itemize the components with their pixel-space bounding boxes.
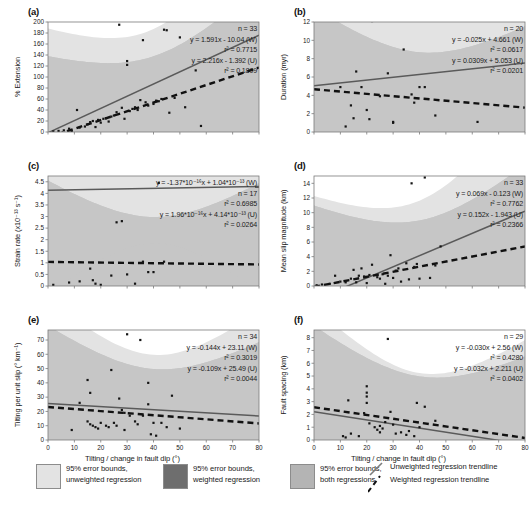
y-tick-label: 70 <box>37 336 45 343</box>
data-point <box>123 429 125 431</box>
y-tick-label: 40 <box>37 106 45 113</box>
y-tick-label: 10 <box>37 422 45 429</box>
y-tick-label: 3.5 <box>35 201 44 208</box>
data-point <box>105 117 107 119</box>
data-point <box>345 125 347 127</box>
data-point <box>100 422 102 424</box>
figure-root: (a)% Extension02040608010012014016018020… <box>0 0 531 509</box>
annotation-line: y = -0.032x + 2.211 (U) <box>454 364 523 375</box>
data-point <box>395 433 397 435</box>
data-point <box>366 402 368 404</box>
data-point <box>97 427 99 429</box>
data-point <box>366 395 368 397</box>
data-point <box>94 283 96 285</box>
annotation-line: n = 20 <box>452 24 523 35</box>
data-point <box>476 121 478 123</box>
chart-panel-b: (b)Duration (myr)024681012n = 20y = -0.0… <box>266 4 531 156</box>
data-point <box>434 264 436 266</box>
data-point <box>329 283 331 285</box>
annotation-line: y = -0.025x + 4.661 (W) <box>452 35 523 46</box>
chart-panel-c: (c)Strain rate (x10⁻¹³ s⁻¹)00.511.522.53… <box>0 158 265 310</box>
data-point <box>158 100 160 102</box>
data-point <box>166 426 168 428</box>
data-point <box>381 273 383 275</box>
y-tick-label: 60 <box>37 351 45 358</box>
data-point <box>355 281 357 283</box>
data-point <box>392 424 394 426</box>
legend-line-label-1: Unweighted regression trendline <box>390 462 497 471</box>
y-tick-label: 0 <box>306 282 310 289</box>
y-tick-label: 4 <box>306 385 310 392</box>
data-point <box>139 339 141 341</box>
data-point <box>345 436 347 438</box>
data-point <box>379 95 381 97</box>
x-tick-label: 20 <box>97 444 105 451</box>
data-point <box>100 122 102 124</box>
y-tick-label: 2 <box>306 268 310 275</box>
data-point <box>366 392 368 394</box>
data-point <box>97 119 99 121</box>
data-point <box>137 423 139 425</box>
data-point <box>110 274 112 276</box>
data-point <box>108 426 110 428</box>
data-point <box>179 427 181 429</box>
y-tick-label: 10 <box>303 37 311 44</box>
data-point <box>400 431 402 433</box>
x-tick-label: 40 <box>416 444 424 451</box>
data-point <box>123 412 125 414</box>
data-point <box>389 411 391 413</box>
y-tick-label: 20 <box>37 117 45 124</box>
data-point <box>413 435 415 437</box>
annotation-line: n = 34 <box>186 332 257 343</box>
annotation-line: r² = 0.0044 <box>186 374 257 385</box>
y-tick-label: 160 <box>33 40 44 47</box>
data-point <box>92 120 94 122</box>
data-point <box>139 99 141 101</box>
x-tick-label: 50 <box>176 444 184 451</box>
y-tick-label: 6 <box>306 360 310 367</box>
data-point <box>379 278 381 280</box>
regression-annotations-a: n = 33y = 1.591x - 10.04 (W)r² = 0.7715y… <box>190 24 257 77</box>
data-point <box>137 109 139 111</box>
data-point <box>123 118 125 120</box>
data-point <box>379 431 381 433</box>
annotation-line: y = 0.152x - 1.943 (U) <box>456 210 523 221</box>
data-point <box>371 264 373 266</box>
y-tick-label: 4 <box>40 190 44 197</box>
annotation-line: y = 1.591x - 10.04 (W) <box>190 35 257 46</box>
data-point <box>339 86 341 88</box>
x-tick-label: 30 <box>390 444 398 451</box>
data-point <box>166 29 168 31</box>
data-point <box>408 278 410 280</box>
data-point <box>334 275 336 277</box>
annotation-line: r² = 0.6985 <box>156 199 257 210</box>
data-point <box>352 269 354 271</box>
y-tick-label: 0 <box>306 436 310 443</box>
y-tick-label: 12 <box>303 18 311 25</box>
data-point <box>355 70 357 72</box>
annotation-line: y = -0.109x + 25.49 (U) <box>186 364 257 375</box>
data-point <box>126 273 128 275</box>
data-point <box>131 108 133 110</box>
data-point <box>94 426 96 428</box>
chart-panel-a: (a)% Extension02040608010012014016018020… <box>0 4 265 156</box>
data-point <box>366 385 368 387</box>
data-point <box>63 129 65 131</box>
data-point <box>384 283 386 285</box>
x-tick-label: 60 <box>469 444 477 451</box>
data-point <box>350 278 352 280</box>
y-tick-label: 6 <box>306 73 310 80</box>
annotation-line: y = 0.069x - 0.123 (W) <box>456 189 523 200</box>
legend-line-label-2: Weighted regression trendline <box>390 475 489 484</box>
data-point <box>142 415 144 417</box>
data-point <box>86 420 88 422</box>
data-point <box>68 281 70 283</box>
data-point <box>121 409 123 411</box>
data-point <box>152 422 154 424</box>
data-point <box>76 109 78 111</box>
y-tick-label: 120 <box>33 62 44 69</box>
chart-panel-f: (f)Fault spacing (km)0123456780102030405… <box>266 312 531 460</box>
data-point <box>89 423 91 425</box>
data-point <box>147 105 149 107</box>
data-point <box>408 430 410 432</box>
